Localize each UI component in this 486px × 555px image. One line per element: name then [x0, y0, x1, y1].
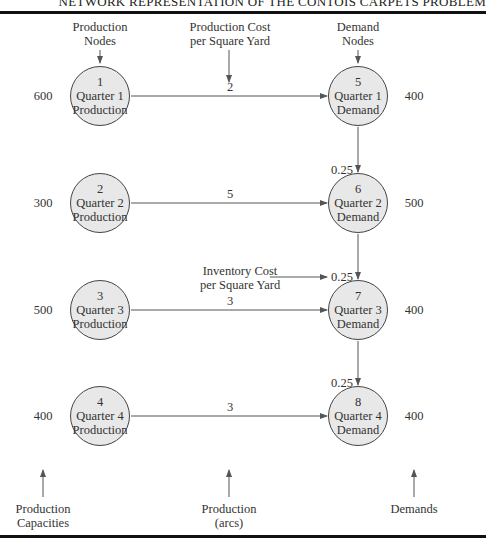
production-nodes-label: Production Nodes [60, 20, 140, 48]
node-id: 7 [355, 289, 361, 303]
demand-node-6: 6 Quarter 2 Demand [328, 173, 388, 233]
label-line: per Square Yard [170, 34, 290, 48]
node-period: Quarter 1 [76, 89, 124, 103]
node-id: 1 [97, 75, 103, 89]
inventory-cost-value: 0.25 [331, 163, 353, 178]
node-type: Demand [337, 103, 379, 117]
production-cost-value: 5 [227, 187, 233, 202]
production-capacities-label: Production Capacities [3, 502, 83, 530]
production-node-3: 3 Quarter 3 Production [70, 280, 130, 340]
demand-value: 400 [405, 303, 424, 318]
node-type: Production [73, 103, 128, 117]
node-period: Quarter 2 [76, 196, 124, 210]
node-period: Quarter 4 [334, 409, 382, 423]
node-period: Quarter 2 [334, 196, 382, 210]
node-type: Production [73, 317, 128, 331]
label-line: Nodes [318, 34, 398, 48]
node-type: Demand [337, 317, 379, 331]
production-cost-value: 3 [227, 294, 233, 309]
label-line: Production [3, 502, 83, 516]
production-arcs-label: Production (arcs) [189, 502, 269, 530]
inventory-cost-label: Inventory Cost per Square Yard [200, 264, 280, 292]
production-cost-label: Production Cost per Square Yard [170, 20, 290, 48]
node-type: Production [73, 423, 128, 437]
label-line: Nodes [60, 34, 140, 48]
node-id: 6 [355, 182, 361, 196]
production-node-1: 1 Quarter 1 Production [70, 66, 130, 126]
production-node-2: 2 Quarter 2 Production [70, 173, 130, 233]
label-line: Capacities [3, 516, 83, 530]
inventory-cost-value: 0.25 [331, 270, 353, 285]
capacity-value: 500 [34, 303, 53, 318]
node-period: Quarter 3 [334, 303, 382, 317]
demand-value: 400 [405, 89, 424, 104]
label-line: Production [60, 20, 140, 34]
production-node-4: 4 Quarter 4 Production [70, 386, 130, 446]
capacity-value: 600 [34, 89, 53, 104]
node-type: Demand [337, 210, 379, 224]
inventory-cost-value: 0.25 [331, 376, 353, 391]
node-id: 3 [97, 289, 103, 303]
demand-value: 400 [405, 409, 424, 424]
demand-value: 500 [405, 196, 424, 211]
label-line: per Square Yard [200, 278, 280, 292]
production-cost-value: 2 [227, 80, 233, 95]
node-id: 5 [355, 75, 361, 89]
demand-nodes-label: Demand Nodes [318, 20, 398, 48]
label-line: (arcs) [189, 516, 269, 530]
node-type: Demand [337, 423, 379, 437]
label-line: Inventory Cost [200, 264, 280, 278]
demand-node-8: 8 Quarter 4 Demand [328, 386, 388, 446]
demand-node-5: 5 Quarter 1 Demand [328, 66, 388, 126]
demand-node-7: 7 Quarter 3 Demand [328, 280, 388, 340]
node-id: 4 [97, 395, 103, 409]
node-id: 2 [97, 182, 103, 196]
node-period: Quarter 4 [76, 409, 124, 423]
capacity-value: 400 [34, 409, 53, 424]
node-period: Quarter 3 [76, 303, 124, 317]
node-type: Production [73, 210, 128, 224]
capacity-value: 300 [34, 196, 53, 211]
production-cost-value: 3 [227, 400, 233, 415]
node-period: Quarter 1 [334, 89, 382, 103]
node-id: 8 [355, 395, 361, 409]
label-line: Production [189, 502, 269, 516]
label-line: Demands [374, 502, 454, 516]
demands-label: Demands [374, 502, 454, 516]
label-line: Production Cost [170, 20, 290, 34]
label-line: Demand [318, 20, 398, 34]
